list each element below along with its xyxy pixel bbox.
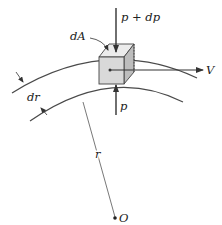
center-point xyxy=(113,216,117,220)
inner-streamline xyxy=(30,87,183,121)
label-pressure-bottom: p xyxy=(120,99,128,113)
dr-arrow-outer xyxy=(16,72,23,82)
label-thickness: dr xyxy=(27,90,41,104)
label-pressure-top: p + dp xyxy=(121,10,161,24)
label-center: O xyxy=(119,211,129,225)
dr-arrow-inner xyxy=(41,108,47,115)
label-velocity: V xyxy=(206,63,216,77)
label-area: dA xyxy=(70,29,86,43)
label-radius-text: r xyxy=(95,147,102,161)
streamline-diagram: p + dp dA V dr p r r O xyxy=(0,0,222,225)
